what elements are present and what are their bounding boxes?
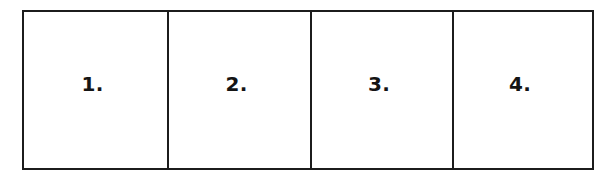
panel-number-3: 3. (368, 74, 390, 94)
panel-cell-3: 3. (310, 12, 452, 168)
panel-frame: 1. 2. 3. 4. (22, 10, 594, 170)
panel-number-1: 1. (82, 74, 104, 94)
panel-number-2: 2. (226, 74, 248, 94)
panel-number-4: 4. (509, 74, 531, 94)
panel-cell-1: 1. (24, 12, 167, 168)
panel-cell-2: 2. (167, 12, 310, 168)
panel-cell-4: 4. (452, 12, 592, 168)
